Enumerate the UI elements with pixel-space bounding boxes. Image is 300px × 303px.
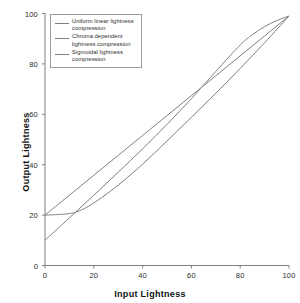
- plot-area: [0, 0, 300, 303]
- x-tick-label: 20: [89, 271, 98, 280]
- legend-line-icon: [55, 20, 69, 27]
- x-tick-label: 100: [282, 271, 295, 280]
- x-tick-label: 0: [43, 271, 47, 280]
- x-axis-title: Input Lightness: [0, 289, 300, 299]
- legend-item[interactable]: Uniform linear lightnesscompression: [53, 18, 138, 32]
- legend-line-icon: [55, 35, 69, 42]
- legend-line-icon: [55, 51, 69, 58]
- y-tick-label: 100: [8, 9, 38, 18]
- legend-item[interactable]: Sigmoidal lightnesscompression: [53, 49, 138, 63]
- x-tick-label: 40: [138, 271, 147, 280]
- line-chart: 020406080100 020406080100 Output Lightne…: [0, 0, 300, 303]
- x-tick-label: 80: [236, 271, 245, 280]
- y-axis-title: Output Lightness: [21, 82, 33, 222]
- legend-item[interactable]: Chroma dependentlightness compression: [53, 33, 138, 47]
- legend-box: Uniform linear lightnesscompression Chro…: [50, 14, 142, 68]
- legend-item-label: Chroma dependentlightness compression: [72, 33, 130, 47]
- y-tick-label: 80: [8, 59, 38, 68]
- legend-item-label: Sigmoidal lightnesscompression: [72, 49, 123, 63]
- legend-item-label: Uniform linear lightnesscompression: [72, 18, 134, 32]
- x-tick-label: 60: [187, 271, 196, 280]
- y-tick-label: 0: [8, 261, 38, 270]
